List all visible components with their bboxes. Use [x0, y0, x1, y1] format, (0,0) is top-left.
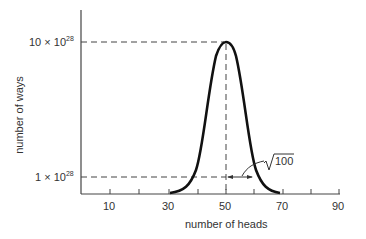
distribution-curve: [170, 42, 280, 193]
x-tick-label-10: 10: [103, 200, 115, 212]
y-tick-low-exp: 28: [66, 170, 74, 177]
x-axis-label: number of heads: [185, 218, 268, 230]
arrow-head-left: [227, 175, 233, 179]
x-tick-label-50: 50: [219, 200, 231, 212]
y-axis-label: number of ways: [13, 76, 25, 154]
y-tick-low: 1 × 1028: [35, 170, 74, 183]
y-tick-top-exp: 28: [66, 35, 74, 42]
x-ticks: [110, 189, 339, 194]
y-tick-top-base: 10 × 10: [29, 36, 66, 48]
x-tick-label-30: 30: [162, 200, 174, 212]
arrow-head-right: [247, 175, 253, 179]
x-tick-label-90: 90: [332, 200, 344, 212]
annotation-label: 100: [275, 155, 293, 167]
y-tick-top: 10 × 1028: [29, 35, 74, 48]
x-tick-label-70: 70: [276, 200, 288, 212]
y-tick-low-base: 1 × 10: [35, 171, 66, 183]
